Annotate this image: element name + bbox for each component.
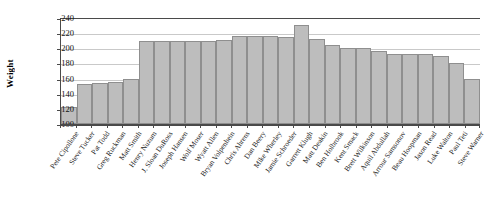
bar: [278, 37, 294, 124]
bar: [325, 45, 341, 125]
bar: [263, 36, 279, 124]
x-axis-tick-mark: [293, 124, 294, 128]
x-axis-tick-mark: [402, 124, 403, 128]
bar: [402, 54, 418, 124]
x-axis-tick-cell: [278, 124, 294, 128]
weight-bar-chart: Weight 100120140160180200220240 Pete Cip…: [0, 0, 496, 208]
y-axis-tick-label: 120: [34, 105, 74, 113]
bar: [387, 54, 403, 124]
bar: [170, 41, 186, 124]
x-axis-tick-mark: [262, 124, 263, 128]
x-axis-tick-mark: [153, 124, 154, 128]
x-axis-tick-cell: [231, 124, 247, 128]
bar: [340, 48, 356, 124]
bar: [154, 41, 170, 124]
bar: [356, 48, 372, 124]
x-axis-tick-mark: [122, 124, 123, 128]
x-axis-tick-mark: [371, 124, 372, 128]
x-axis-tick-mark: [231, 124, 232, 128]
x-axis-tick-mark: [91, 124, 92, 128]
x-axis-tick-cell: [356, 124, 372, 128]
x-axis-tick-mark: [278, 124, 279, 128]
x-axis-tick-cell: [371, 124, 387, 128]
x-axis-tick-mark: [200, 124, 201, 128]
x-axis-tick-cell: [76, 124, 92, 128]
x-axis-tick-labels: Pete CipolloneSteve TuckerPat ToddGreg R…: [60, 130, 480, 208]
x-axis-tick-mark: [185, 124, 186, 128]
x-axis-tick-mark: [138, 124, 139, 128]
x-axis-tick-mark: [387, 124, 388, 128]
y-axis-tick-label: 180: [34, 59, 74, 67]
x-axis-tick-cell: [387, 124, 403, 128]
x-axis-tick-cell: [185, 124, 201, 128]
x-axis-tick-cell: [216, 124, 232, 128]
x-axis-tick-mark: [60, 124, 61, 128]
bar: [247, 36, 263, 124]
x-axis-ticks: [60, 124, 480, 128]
bar: [232, 36, 248, 124]
x-axis-tick-cell: [325, 124, 341, 128]
x-axis-tick-cell: [60, 124, 76, 128]
x-axis-tick-mark: [340, 124, 341, 128]
x-axis-tick-cell: [465, 124, 481, 128]
bar: [139, 41, 155, 124]
x-axis-tick-cell: [449, 124, 465, 128]
x-axis-tick-mark: [325, 124, 326, 128]
y-axis-tick-label: 160: [34, 75, 74, 83]
y-axis-tick-label: 240: [34, 14, 74, 22]
bar: [418, 54, 434, 124]
y-axis-tick-label: 140: [34, 90, 74, 98]
bar: [433, 56, 449, 124]
y-axis-tick-label: 220: [34, 29, 74, 37]
x-axis-tick-cell: [247, 124, 263, 128]
x-axis-tick-cell: [293, 124, 309, 128]
x-axis-tick-cell: [138, 124, 154, 128]
plot-area: [60, 18, 480, 124]
x-axis-tick-cell: [402, 124, 418, 128]
x-axis-tick-cell: [153, 124, 169, 128]
x-axis-tick-mark: [479, 124, 480, 128]
bar: [449, 63, 465, 124]
y-axis-title: Weight: [2, 44, 18, 104]
x-axis-tick-mark: [309, 124, 310, 128]
bar: [185, 41, 201, 124]
x-axis-tick-mark: [216, 124, 217, 128]
x-axis-tick-mark: [465, 124, 466, 128]
x-axis-tick-cell: [434, 124, 450, 128]
x-axis-tick-cell: [262, 124, 278, 128]
x-axis-tick-cell: [122, 124, 138, 128]
x-axis-tick-mark: [418, 124, 419, 128]
x-axis-tick-cell: [309, 124, 325, 128]
bar: [216, 40, 232, 124]
bar: [108, 82, 124, 124]
bar-series: [61, 19, 480, 124]
x-axis-tick-cell: [107, 124, 123, 128]
y-axis-tick-label: 200: [34, 44, 74, 52]
bar: [309, 39, 325, 124]
x-axis-tick-mark: [434, 124, 435, 128]
x-axis-tick-cell: [200, 124, 216, 128]
x-axis-tick-cell: [340, 124, 356, 128]
x-axis-tick-mark: [76, 124, 77, 128]
x-axis-tick-mark: [247, 124, 248, 128]
bar: [123, 79, 139, 124]
x-axis-tick-cell: [169, 124, 185, 128]
x-axis-tick-mark: [449, 124, 450, 128]
x-axis-tick-cell: [418, 124, 434, 128]
x-axis-tick-cell: [91, 124, 107, 128]
x-axis-tick-mark: [356, 124, 357, 128]
bar: [92, 83, 108, 124]
bar: [77, 84, 93, 124]
bar: [371, 51, 387, 124]
bar: [464, 79, 480, 124]
bar: [294, 25, 310, 124]
x-axis-tick-mark: [169, 124, 170, 128]
x-axis-tick-mark: [107, 124, 108, 128]
bar: [201, 41, 217, 124]
